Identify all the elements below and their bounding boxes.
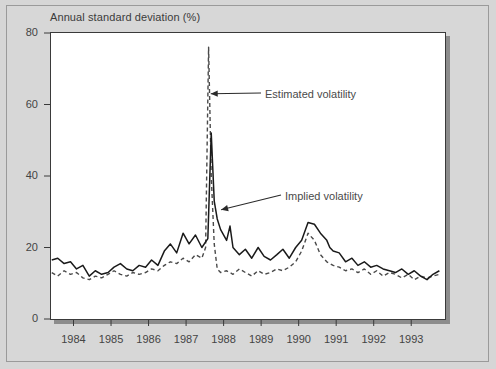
y-tick-label: 0	[8, 312, 38, 324]
x-tick-label: 1993	[391, 333, 431, 345]
x-tick-label: 1987	[166, 333, 206, 345]
y-tick-label: 80	[8, 26, 38, 38]
plot-area	[50, 32, 446, 320]
series-estimated-volatility	[52, 47, 440, 279]
series-implied-volatility	[52, 133, 440, 280]
plot-svg	[51, 33, 445, 319]
annotation-estimated-volatility: Estimated volatility	[265, 88, 356, 100]
x-tick-label: 1986	[129, 333, 169, 345]
x-tick-label: 1989	[241, 333, 281, 345]
annotation-implied-volatility: Implied volatility	[285, 190, 363, 202]
figure-container: Annual standard deviation (%) 020406080 …	[0, 0, 496, 369]
series-layer	[52, 47, 440, 279]
y-tick-label: 60	[8, 98, 38, 110]
x-tick-label: 1992	[354, 333, 394, 345]
x-tick-label: 1990	[279, 333, 319, 345]
x-tick-label: 1988	[204, 333, 244, 345]
x-tick-label: 1991	[316, 333, 356, 345]
chart-title: Annual standard deviation (%)	[50, 11, 200, 23]
y-tick-label: 40	[8, 169, 38, 181]
x-tick-label: 1984	[54, 333, 94, 345]
y-tick-label: 20	[8, 241, 38, 253]
x-tick-label: 1985	[91, 333, 131, 345]
